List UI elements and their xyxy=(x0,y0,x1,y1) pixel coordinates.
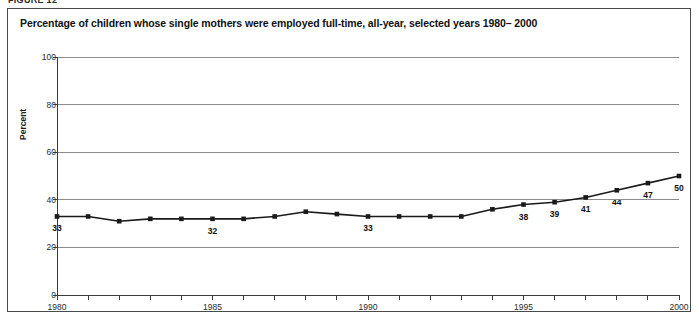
line-chart-svg xyxy=(0,0,699,319)
data-point-1994 xyxy=(490,207,495,212)
data-point-1996 xyxy=(552,200,557,205)
data-point-1989 xyxy=(335,212,340,217)
data-point-2000 xyxy=(677,174,682,179)
data-point-1997 xyxy=(583,195,588,200)
data-point-1983 xyxy=(148,217,153,222)
data-point-1991 xyxy=(397,214,402,219)
data-point-1982 xyxy=(117,219,122,224)
data-point-1995 xyxy=(521,202,526,207)
data-point-1999 xyxy=(646,181,651,186)
data-point-1985 xyxy=(210,217,215,222)
data-point-1981 xyxy=(86,214,91,219)
data-point-1980 xyxy=(55,214,60,219)
data-point-1992 xyxy=(428,214,433,219)
data-point-1990 xyxy=(366,214,371,219)
plot-area: Percent 020406080100 1980198519901995200… xyxy=(0,0,699,319)
data-point-1993 xyxy=(459,214,464,219)
data-point-1998 xyxy=(615,188,620,193)
data-point-1987 xyxy=(272,214,277,219)
data-point-1988 xyxy=(304,209,309,214)
data-point-1986 xyxy=(241,217,246,222)
figure-page: FIGURE 12 Percentage of children whose s… xyxy=(0,0,699,319)
data-point-1984 xyxy=(179,217,184,222)
